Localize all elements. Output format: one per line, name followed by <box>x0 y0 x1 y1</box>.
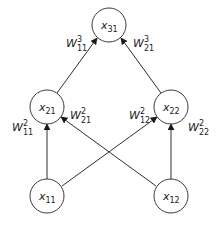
weight-label-w3-21: W321 <box>133 35 154 53</box>
weight-label-w2-11: W211 <box>12 119 33 137</box>
node-x11: x11 <box>30 179 64 213</box>
weight-label-w2-21: W221 <box>70 107 91 125</box>
edge-x11-x22 <box>62 117 157 186</box>
node-x12: x12 <box>154 179 188 213</box>
network-diagram: x31 x21 x22 x11 x12 W311 W321 W211 W221 … <box>0 0 218 229</box>
weight-label-w2-12: W212 <box>129 107 150 125</box>
edges <box>47 38 171 186</box>
node-x21: x21 <box>30 90 64 124</box>
edge-x12-x21 <box>61 117 156 186</box>
node-x22: x22 <box>154 90 188 124</box>
node-x31: x31 <box>92 8 126 42</box>
weight-label-w2-22: W222 <box>188 119 209 137</box>
weight-label-w3-11: W311 <box>66 35 87 53</box>
